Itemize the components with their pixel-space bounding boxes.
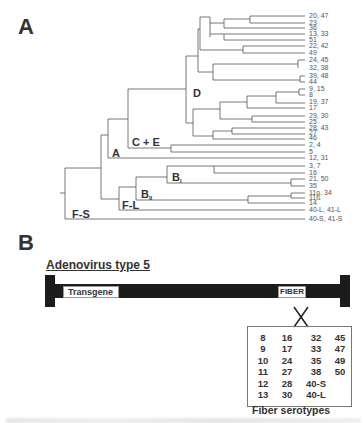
leaf-label: 12, 31 <box>309 154 329 161</box>
clade-label-f-s: F-S <box>72 208 90 220</box>
leaf-label: 21, 50 <box>309 175 329 182</box>
serotype-cell: 27 <box>278 366 296 377</box>
leaf-label: 3, 7 <box>309 162 321 169</box>
serotype-cell: 35 <box>303 355 329 366</box>
leaf-label: 24, 45 <box>309 56 329 63</box>
clade-label-a: A <box>112 147 120 159</box>
clade-label-b1: BI <box>172 171 182 184</box>
serotype-cell: 24 <box>278 355 296 366</box>
serotype-column: 45 47 49 50 <box>331 332 349 378</box>
genome-title: Adenovirus type 5 <box>46 258 150 272</box>
leaf-label: 32, 38 <box>309 64 329 71</box>
serotype-cell: 11 <box>254 366 272 377</box>
serotype-column: 32 33 35 38 40-S 40-L <box>303 332 329 400</box>
serotype-cell: 47 <box>331 343 349 354</box>
serotype-cell: 28 <box>278 378 296 389</box>
serotype-cell: 10 <box>254 355 272 366</box>
serotype-column: 16 17 24 27 28 30 <box>278 332 296 400</box>
leaf-label: 2, 4 <box>309 141 321 148</box>
serotype-column: 8 9 10 11 12 13 <box>254 332 272 400</box>
leaf-label: 35 <box>309 182 317 189</box>
leaf-label: 17 <box>309 104 317 111</box>
clade-label-c-e: C + E <box>132 136 160 148</box>
leaf-label: 46 <box>309 134 317 141</box>
adenovirus-genome-diagram: Transgene FIBER <box>45 275 350 307</box>
serotype-cell: 45 <box>331 332 349 343</box>
fiber-box: FIBER <box>278 286 306 298</box>
serotype-cell: 12 <box>254 378 272 389</box>
leaf-label: 44 <box>309 78 317 85</box>
fiber-serotype-table: 8 9 10 11 12 13 16 17 24 27 28 30 32 33 … <box>247 326 352 407</box>
leaf-label: 40-S, 41-S <box>309 215 343 222</box>
serotype-cell: 33 <box>303 343 329 354</box>
leaf-label: 49 <box>309 49 317 56</box>
serotype-caption: Fiber serotypes <box>252 404 330 416</box>
leaf-label: 14 <box>309 199 317 206</box>
leaf-label: 20, 47 <box>309 12 329 19</box>
transgene-box: Transgene <box>63 286 119 298</box>
clade-label-f-l: F-L <box>122 199 139 211</box>
serotype-cell: 38 <box>303 366 329 377</box>
clade-label-d: D <box>193 87 201 99</box>
leaf-labels: 20, 47 23 36 13, 33 51 22, 42 49 24, 45 … <box>309 12 343 222</box>
genome-left-itr <box>45 275 55 307</box>
serotype-cell: 16 <box>278 332 296 343</box>
serotype-cell: 40-L <box>303 389 329 400</box>
serotype-cell: 50 <box>331 366 349 377</box>
swap-cross-icon <box>292 306 310 328</box>
figure-caption-blurred <box>6 418 361 423</box>
leaf-label: 8 <box>309 91 313 98</box>
serotype-cell: 8 <box>254 332 272 343</box>
genome-right-itr <box>340 275 350 307</box>
leaf-label: 40-L, 41-L <box>309 206 341 213</box>
serotype-cell: 30 <box>278 389 296 400</box>
phylogenetic-tree: D C + E A BI BII F-L F-S 20, 47 23 36 13… <box>0 0 363 225</box>
serotype-cell: 9 <box>254 343 272 354</box>
panel-b-label: B <box>18 230 34 256</box>
serotype-cell: 17 <box>278 343 296 354</box>
clade-label-b2: BII <box>141 188 153 201</box>
leaf-label: 22, 42 <box>309 42 329 49</box>
serotype-cell: 40-S <box>303 378 329 389</box>
serotype-cell: 32 <box>303 332 329 343</box>
serotype-cell: 13 <box>254 389 272 400</box>
serotype-cell: 49 <box>331 355 349 366</box>
